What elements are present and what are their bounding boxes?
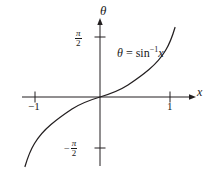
curve-equation-label: θ = sin−1x bbox=[117, 46, 164, 59]
x-axis-label: x bbox=[197, 86, 202, 98]
fraction-numerator: π bbox=[71, 139, 78, 148]
plot-canvas bbox=[0, 0, 210, 172]
equation-equals: = bbox=[126, 46, 133, 60]
arcsine-function-figure: θ x −1 1 π 2 − π 2 θ = sin−1x bbox=[0, 0, 210, 172]
fraction-numerator: π bbox=[75, 29, 82, 38]
fraction-neg-pi-over-two: π 2 bbox=[71, 139, 78, 158]
x-tick-label-pos-one: 1 bbox=[167, 101, 173, 112]
x-tick-label-neg-one: −1 bbox=[28, 101, 40, 112]
theta-axis-arrowhead bbox=[97, 18, 102, 25]
minus-sign: − bbox=[64, 144, 70, 154]
x-axis-arrowhead bbox=[189, 94, 196, 99]
theta-axis bbox=[97, 18, 102, 166]
fraction-denominator: 2 bbox=[71, 149, 78, 158]
equation-function: sin bbox=[136, 46, 150, 60]
fraction-pi-over-two: π 2 bbox=[75, 29, 82, 48]
y-tick-label-neg-pi-over-two: − π 2 bbox=[64, 139, 77, 158]
theta-axis-label: θ bbox=[100, 4, 106, 17]
equation-argument: x bbox=[158, 46, 163, 60]
y-tick-label-pi-over-two: π 2 bbox=[75, 29, 82, 48]
equation-exponent: −1 bbox=[150, 45, 159, 54]
fraction-denominator: 2 bbox=[75, 39, 82, 48]
equation-theta: θ bbox=[117, 46, 123, 60]
